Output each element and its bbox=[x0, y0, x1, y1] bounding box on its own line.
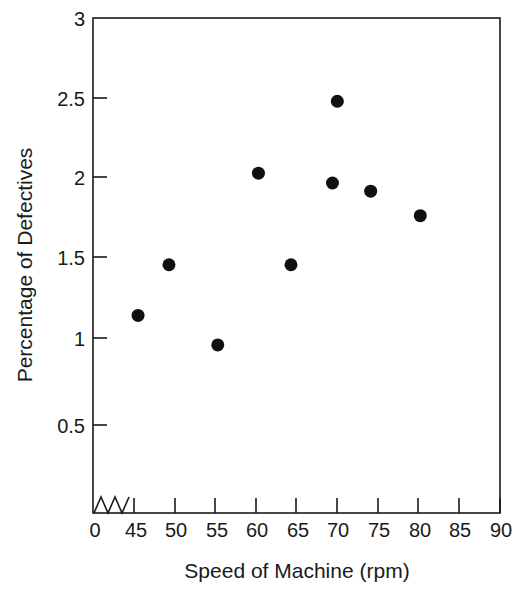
y-axis-title: Percentage of Defectives bbox=[13, 148, 36, 383]
x-axis-break-zigzag-icon bbox=[94, 497, 129, 513]
x-tick-label-70: 70 bbox=[327, 519, 349, 541]
data-point bbox=[326, 177, 339, 190]
data-point bbox=[132, 309, 145, 322]
x-tick-label-80: 80 bbox=[409, 519, 431, 541]
x-axis-tick-labels: 0 45 50 55 60 65 70 75 80 85 90 bbox=[89, 519, 512, 541]
y-axis-ticks bbox=[93, 98, 107, 425]
x-tick-label-50: 50 bbox=[165, 519, 187, 541]
x-tick-label-85: 85 bbox=[449, 519, 471, 541]
data-point bbox=[284, 258, 297, 271]
data-point bbox=[414, 209, 427, 222]
data-point bbox=[252, 167, 265, 180]
y-tick-label-2: 2 bbox=[74, 167, 85, 189]
y-tick-label-0.5: 0.5 bbox=[57, 415, 85, 437]
data-points-layer bbox=[132, 95, 427, 352]
x-tick-label-90: 90 bbox=[490, 519, 512, 541]
scatter-plot-figure: 3 2.5 2 1.5 1 0.5 0 45 50 55 bbox=[0, 0, 527, 595]
x-axis-ticks bbox=[134, 498, 500, 513]
data-point bbox=[331, 95, 344, 108]
data-point bbox=[162, 258, 175, 271]
y-tick-label-2.5: 2.5 bbox=[57, 88, 85, 110]
plot-svg: 3 2.5 2 1.5 1 0.5 0 45 50 55 bbox=[0, 0, 527, 595]
x-tick-label-45: 45 bbox=[125, 519, 147, 541]
x-tick-label-65: 65 bbox=[287, 519, 309, 541]
y-tick-label-1: 1 bbox=[74, 328, 85, 350]
y-axis-tick-labels: 3 2.5 2 1.5 1 0.5 bbox=[57, 8, 85, 437]
x-tick-label-75: 75 bbox=[368, 519, 390, 541]
x-tick-label-60: 60 bbox=[246, 519, 268, 541]
x-axis-title: Speed of Machine (rpm) bbox=[184, 559, 409, 582]
x-tick-label-55: 55 bbox=[206, 519, 228, 541]
x-tick-label-0: 0 bbox=[89, 519, 100, 541]
data-point bbox=[211, 338, 224, 351]
y-tick-label-1.5: 1.5 bbox=[57, 247, 85, 269]
data-point bbox=[364, 185, 377, 198]
y-tick-label-3: 3 bbox=[74, 8, 85, 30]
